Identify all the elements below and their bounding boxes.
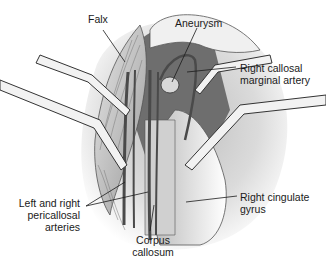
label-pericallosal-1: Left and right [19,197,80,209]
label-pericallosal-2: pericallosal [27,209,80,221]
label-aneurysm: Aneurysm [175,17,222,29]
label-right-cingulate-gyrus-2: gyrus [240,203,266,215]
label-pericallosal-3: arteries [45,221,80,233]
label-corpus-callosum-1: Corpus [128,234,178,246]
illustration-canvas: Falx Aneurysm Right callosal marginal ar… [0,0,326,261]
label-falx: Falx [88,13,108,25]
label-corpus-callosum-2: callosum [128,246,178,258]
label-right-callosal-marginal-artery-2: marginal artery [240,74,310,86]
label-right-callosal-marginal-artery-1: Right callosal [240,62,302,74]
aneurysm [161,77,179,93]
label-right-cingulate-gyrus-1: Right cingulate [240,191,309,203]
